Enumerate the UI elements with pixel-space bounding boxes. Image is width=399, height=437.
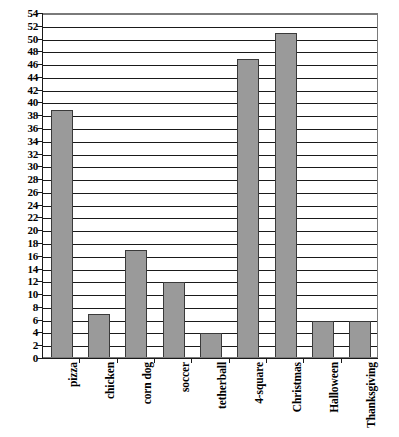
y-axis-tick-label: 2: [4, 340, 38, 350]
y-axis-tick-label: 18: [4, 238, 38, 248]
x-axis-category-label: chicken: [104, 362, 116, 399]
gridline: [43, 27, 377, 28]
y-axis-tick-label: 38: [4, 110, 38, 120]
y-axis-tick-label: 34: [4, 136, 38, 146]
bar: [349, 321, 371, 358]
y-axis-tick-mark: [37, 332, 42, 333]
y-axis-tick-label: 14: [4, 264, 38, 274]
gridline: [43, 193, 377, 194]
x-axis-category-label: Halloween: [328, 362, 340, 413]
bar: [200, 333, 222, 358]
gridline: [43, 103, 377, 104]
y-axis-tick-mark: [37, 141, 42, 142]
gridline: [43, 180, 377, 181]
y-axis-tick-mark: [37, 13, 42, 14]
y-axis-tick-label: 54: [4, 8, 38, 18]
gridline: [43, 167, 377, 168]
y-axis-tick-mark: [37, 39, 42, 40]
gridline: [43, 14, 377, 15]
y-axis-tick-mark: [37, 217, 42, 218]
bar: [312, 321, 334, 358]
gridline: [43, 206, 377, 207]
bar: [275, 33, 297, 358]
y-axis-tick-label: 40: [4, 97, 38, 107]
gridline: [43, 308, 377, 309]
gridline: [43, 270, 377, 271]
y-axis-tick-label: 28: [4, 174, 38, 184]
x-axis-category-label: tetherball: [216, 362, 228, 409]
gridline: [43, 78, 377, 79]
x-axis-tick-mark: [79, 358, 80, 363]
gridline: [43, 142, 377, 143]
y-axis-tick-label: 8: [4, 302, 38, 312]
y-axis-tick-label: 26: [4, 187, 38, 197]
y-axis-tick-label: 10: [4, 289, 38, 299]
y-axis-tick-label: 0: [4, 353, 38, 363]
plot-area: [42, 13, 378, 358]
x-axis-category-label: Christmas: [291, 362, 303, 412]
y-axis-tick-mark: [37, 320, 42, 321]
y-axis-tick-label: 32: [4, 149, 38, 159]
y-axis-tick-label: 46: [4, 59, 38, 69]
x-axis-tick-mark: [117, 358, 118, 363]
y-axis-tick-mark: [37, 90, 42, 91]
y-axis-tick-label: 6: [4, 315, 38, 325]
y-axis-tick-mark: [37, 115, 42, 116]
bar: [51, 110, 73, 358]
gridline: [43, 52, 377, 53]
gridline: [43, 116, 377, 117]
y-axis-tick-mark: [37, 102, 42, 103]
y-axis-tick-mark: [37, 281, 42, 282]
y-axis-tick-mark: [37, 77, 42, 78]
x-axis-category-label: Thanksgiving: [365, 362, 377, 428]
y-axis-tick-mark: [37, 230, 42, 231]
y-axis-tick-mark: [37, 64, 42, 65]
y-axis-tick-mark: [37, 192, 42, 193]
x-axis-tick-mark: [341, 358, 342, 363]
y-axis-tick-labels: 0246810121416182022242628303234363840424…: [0, 0, 38, 437]
y-axis-tick-mark: [37, 166, 42, 167]
y-axis-tick-label: 50: [4, 34, 38, 44]
gridline: [43, 218, 377, 219]
gridline: [43, 155, 377, 156]
y-axis-tick-label: 48: [4, 46, 38, 56]
x-axis-category-label: soccer: [179, 362, 191, 392]
y-axis-tick-label: 22: [4, 212, 38, 222]
gridline: [43, 295, 377, 296]
gridline: [43, 231, 377, 232]
y-axis-tick-mark: [37, 154, 42, 155]
y-axis-tick-mark: [37, 294, 42, 295]
y-axis-tick-label: 52: [4, 21, 38, 31]
y-axis-tick-mark: [37, 128, 42, 129]
gridline: [43, 40, 377, 41]
y-axis-tick-mark: [37, 179, 42, 180]
y-axis-tick-label: 12: [4, 276, 38, 286]
y-axis-tick-label: 44: [4, 72, 38, 82]
bar: [163, 282, 185, 358]
x-axis-tick-mark: [154, 358, 155, 363]
x-axis-tick-mark: [266, 358, 267, 363]
x-axis-category-label: corn dog: [141, 362, 153, 404]
y-axis-tick-label: 30: [4, 161, 38, 171]
y-axis-tick-mark: [37, 256, 42, 257]
y-axis-tick-label: 4: [4, 327, 38, 337]
y-axis-tick-mark: [37, 51, 42, 52]
y-axis-tick-mark: [37, 358, 42, 359]
bar: [237, 59, 259, 358]
gridline: [43, 129, 377, 130]
gridline: [43, 244, 377, 245]
y-axis-tick-mark: [37, 345, 42, 346]
gridline: [43, 91, 377, 92]
y-axis-tick-label: 20: [4, 225, 38, 235]
gridline: [43, 282, 377, 283]
bar: [125, 250, 147, 358]
y-axis-tick-mark: [37, 26, 42, 27]
y-axis-tick-label: 42: [4, 85, 38, 95]
x-axis-line: [42, 358, 378, 359]
gridline: [43, 257, 377, 258]
x-axis-tick-mark: [191, 358, 192, 363]
y-axis-tick-mark: [37, 269, 42, 270]
x-axis-tick-mark: [303, 358, 304, 363]
y-axis-tick-mark: [37, 243, 42, 244]
x-axis-category-label: 4-square: [253, 362, 265, 404]
